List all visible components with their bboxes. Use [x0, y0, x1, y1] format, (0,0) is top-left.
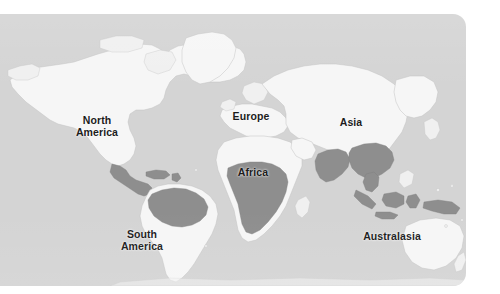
shaded-borneo [382, 192, 404, 208]
shaded-sulawesi [406, 194, 420, 208]
shaded-java [375, 212, 398, 219]
island-atlantic-dot-1 [195, 169, 198, 172]
island-japan [424, 118, 440, 140]
island-pacific-dot-3 [445, 225, 448, 228]
shaded-indian-subcontinent [315, 149, 350, 182]
map-panel: North America South America Europe Afric… [0, 14, 466, 286]
island-philippines [399, 170, 414, 188]
world-map-figure: North America South America Europe Afric… [0, 0, 500, 294]
island-madagascar [295, 196, 310, 218]
world-map-graphic [0, 14, 466, 286]
island-pacific-dot-4 [461, 219, 464, 222]
shaded-central-southern-africa [227, 162, 288, 234]
shaded-lesser-antilles [172, 173, 181, 182]
shaded-caribbean [146, 170, 170, 179]
shaded-new-guinea [423, 200, 460, 214]
island-british-isles [220, 99, 236, 111]
landmass-antarctica-edge [110, 278, 466, 286]
island-pacific-dot-1 [436, 188, 439, 191]
island-pacific-dot-2 [451, 185, 454, 188]
island-atlantic-dot-2 [205, 245, 208, 248]
shaded-central-america [110, 164, 152, 196]
shaded-sumatra [354, 190, 376, 209]
